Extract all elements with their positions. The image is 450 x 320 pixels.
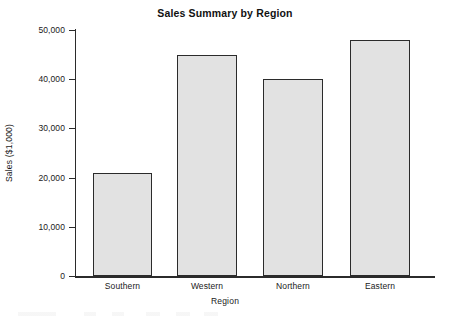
bar-chart: Sales Summary by Region Sales ($1,000) 0… — [0, 0, 450, 320]
y-tick-label: 30,000 — [38, 123, 65, 133]
bar-western — [177, 55, 237, 276]
y-tick-mark — [69, 227, 75, 228]
bar-northern — [263, 79, 323, 276]
y-tick-label: 40,000 — [38, 74, 65, 84]
y-tick-label: 20,000 — [38, 173, 65, 183]
y-tick-label: 0 — [60, 271, 65, 281]
scan-artifact — [18, 312, 218, 316]
y-tick-label: 10,000 — [38, 222, 65, 232]
plot-area — [76, 30, 435, 276]
y-tick-mark — [69, 79, 75, 80]
bar-eastern — [350, 40, 410, 276]
x-axis-title: Region — [0, 296, 450, 306]
y-tick-mark — [69, 178, 75, 179]
y-tick-mark — [69, 276, 75, 277]
x-tick-label-northern: Northern — [276, 281, 310, 291]
x-axis-line — [75, 276, 435, 278]
x-tick-label-western: Western — [191, 281, 223, 291]
bar-southern — [93, 173, 152, 276]
chart-title: Sales Summary by Region — [0, 7, 450, 19]
y-tick-mark — [69, 30, 75, 31]
x-tick-label-eastern: Eastern — [365, 281, 395, 291]
y-tick-label: 50,000 — [38, 25, 65, 35]
y-tick-mark — [69, 128, 75, 129]
x-tick-label-southern: Southern — [105, 281, 140, 291]
y-axis-title: Sales ($1,000) — [4, 124, 14, 182]
